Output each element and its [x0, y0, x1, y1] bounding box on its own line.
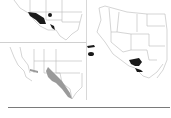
dark-patch-arizona — [88, 52, 94, 56]
map-panel-bottom-left — [0, 43, 86, 103]
map-panel-right — [87, 0, 171, 80]
dark-patch-newmexico — [129, 58, 142, 66]
dark-range-dot — [48, 13, 52, 17]
dark-patch-texas — [135, 68, 143, 72]
figure-bottom-rule — [8, 107, 170, 108]
map-southwest-dark-range — [0, 0, 86, 42]
dark-range-shape — [28, 12, 46, 24]
map-panel-top-left — [0, 0, 86, 42]
dark-patch-nevada — [87, 45, 95, 48]
map-southwest-grey-range — [0, 43, 86, 103]
map-western-us-dark-patches — [87, 0, 171, 80]
grey-range-band-main — [46, 67, 72, 99]
